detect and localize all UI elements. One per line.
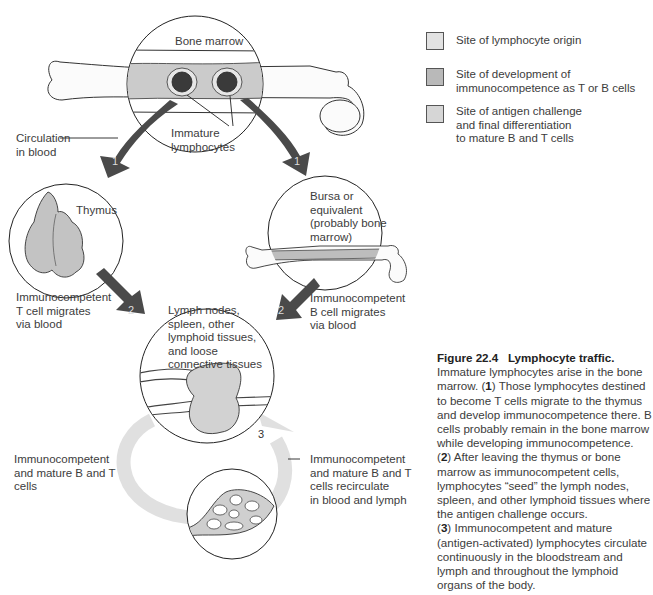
label-immature-lymphocytes: Immature lymphocytes	[171, 127, 235, 154]
svg-text:1: 1	[294, 155, 300, 167]
label-t-cell-migrates: Immunocompetent T cell migrates via bloo…	[16, 291, 111, 332]
legend-label: Site of development of immunocompetence …	[456, 68, 635, 95]
immature-lymphocyte-cell	[167, 68, 197, 96]
legend-item-development: Site of development of immunocompetence …	[426, 68, 635, 95]
legend-item-antigen-challenge: Site of antigen challenge and final diff…	[426, 105, 582, 146]
caption-paragraph-3: (3) Immunocompetent and mature (antigen-…	[437, 521, 653, 592]
caption-paragraph-1: Immature lymphocytes arise in the bone m…	[437, 365, 653, 450]
figure-title: Lymphocyte traffic.	[508, 351, 615, 364]
label-circulation-in-blood: Circulation in blood	[16, 132, 70, 159]
caption-text: ) After leaving the thymus or bone marro…	[437, 450, 650, 520]
label-lymph-nodes: Lymph nodes, spleen, other lymphoid tiss…	[168, 304, 262, 372]
immature-lymphocyte-cell	[212, 68, 242, 96]
label-bursa: Bursa or equivalent (probably bone marro…	[310, 190, 387, 244]
legend-label: Site of antigen challenge and final diff…	[456, 105, 582, 146]
label-thymus: Thymus	[76, 204, 117, 218]
legend-label: Site of lymphocyte origin	[456, 34, 581, 48]
label-b-cell-migrates: Immunocompetent B cell migrates via bloo…	[310, 292, 405, 333]
figure-number: Figure 22.4	[437, 351, 498, 364]
lymphatic-network-circle	[187, 469, 277, 559]
legend-item-origin: Site of lymphocyte origin	[426, 32, 581, 50]
legend-swatch-antigen	[426, 105, 444, 123]
label-recirculate: Immunocompetent and mature B and T cells…	[310, 453, 411, 507]
svg-text:3: 3	[258, 428, 264, 440]
caption-text: ) Immunocompetent and mature (antigen-ac…	[437, 521, 647, 591]
svg-text:1: 1	[112, 155, 118, 167]
legend-swatch-development	[426, 68, 444, 86]
svg-text:2: 2	[278, 304, 284, 316]
svg-text:2: 2	[128, 304, 134, 316]
label-bone-marrow: Bone marrow	[175, 35, 243, 49]
figure-caption: Figure 22.4 Lymphocyte traffic. Immature…	[437, 351, 653, 592]
legend-swatch-origin	[426, 32, 444, 50]
lymph-node-illustration	[187, 363, 241, 433]
label-mature-b-t-cells: Immunocompetent and mature B and T cells	[14, 453, 115, 494]
caption-paragraph-2: (2) After leaving the thymus or bone mar…	[437, 450, 653, 521]
